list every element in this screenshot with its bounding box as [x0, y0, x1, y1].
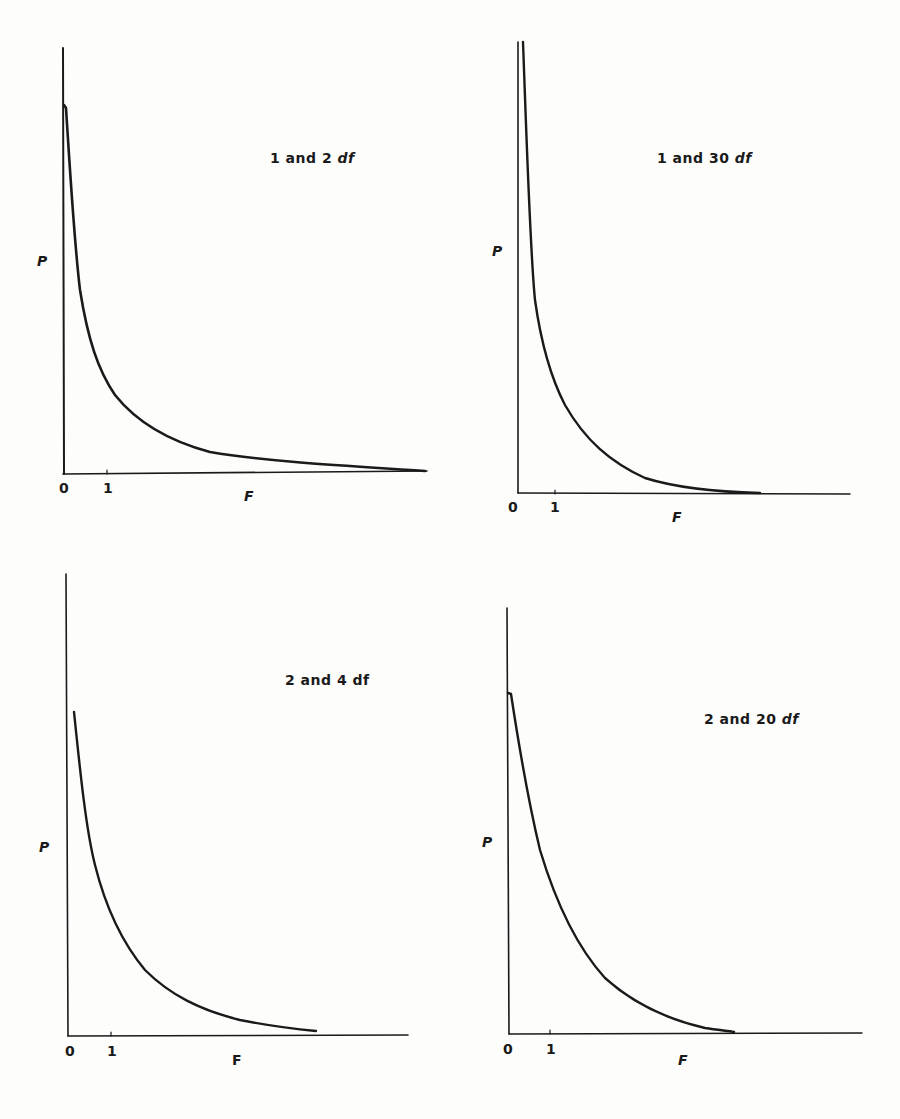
panel-2-title-unit: df	[735, 150, 752, 166]
panel-4-x-label: F	[678, 1052, 688, 1068]
panel-4-title-text: 2 and 20	[704, 711, 782, 727]
panel-3-y-label: P	[39, 839, 49, 855]
panel-3-tick-1-label: 1	[107, 1043, 117, 1059]
panel-3-title: 2 and 4 df	[285, 672, 370, 688]
panel-2-x-label: F	[672, 509, 682, 525]
panel-1-tick-0-label: 0	[59, 480, 69, 496]
panel-3-axes	[66, 574, 408, 1036]
panel-4-tick-1-label: 1	[546, 1041, 556, 1057]
panel-1-y-label: P	[37, 253, 47, 269]
panel-2-axes	[518, 42, 850, 494]
panel-2-tick-1-label: 1	[550, 499, 560, 515]
panel-3-y-axis	[66, 574, 68, 1036]
panel-3-title-text: 2 and 4	[285, 672, 353, 688]
panel-3-tick-0-label: 0	[65, 1043, 75, 1059]
panel-4-x-axis	[509, 1033, 862, 1034]
panel-4-y-label: P	[482, 834, 492, 850]
panel-1-x-label: F	[244, 488, 254, 504]
panel-2-title: 1 and 30 df	[657, 150, 752, 166]
panel-1-x-axis	[63, 471, 427, 474]
panel-2-y-label: P	[492, 243, 502, 259]
panel-4-title: 2 and 20 df	[704, 711, 799, 727]
panel-1-title: 1 and 2 df	[270, 150, 355, 166]
panel-1-tick-1-label: 1	[103, 480, 113, 496]
panel-3-curve	[74, 712, 316, 1031]
panel-1-y-axis	[63, 48, 64, 474]
panel-4-axes	[507, 608, 862, 1034]
panel-4-title-unit: df	[782, 711, 799, 727]
panel-1-title-unit: df	[338, 150, 355, 166]
panel-1-title-text: 1 and 2	[270, 150, 338, 166]
figure-canvas	[0, 0, 900, 1119]
panel-4-y-axis	[507, 608, 509, 1034]
panel-1-axes	[63, 48, 427, 474]
panel-3-x-axis	[68, 1035, 408, 1036]
panel-4-curve	[508, 693, 734, 1032]
panel-2-curve	[523, 42, 760, 493]
panel-2-x-axis	[518, 493, 850, 494]
panel-3-x-label: F	[232, 1052, 242, 1068]
panel-2-title-text: 1 and 30	[657, 150, 735, 166]
panel-4-tick-0-label: 0	[503, 1041, 513, 1057]
panel-2-tick-0-label: 0	[508, 499, 518, 515]
panel-1-curve	[64, 105, 425, 471]
panel-3-title-unit: df	[353, 672, 370, 688]
